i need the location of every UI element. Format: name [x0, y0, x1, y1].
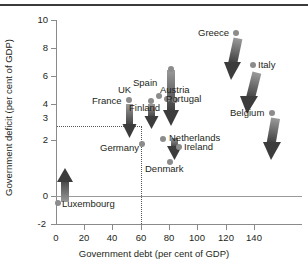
scatter-chart: 10 8 6 4 3 2 0 -2 0 20 40 60 80 100 120 … [0, 0, 308, 268]
arrow-belgium [263, 117, 281, 160]
data-point-ireland[interactable] [176, 144, 182, 150]
label-germany: Germany [100, 142, 139, 153]
label-uk: UK [118, 84, 131, 95]
label-greece: Greece [198, 27, 229, 38]
data-point-netherlands[interactable] [160, 136, 166, 142]
arrow-greece [224, 37, 242, 80]
data-point-greece[interactable] [233, 30, 239, 36]
label-denmark: Denmark [145, 163, 184, 174]
label-portugal: Portugal [166, 93, 201, 104]
label-italy: Italy [258, 59, 275, 70]
data-point-italy[interactable] [250, 62, 256, 68]
arrow-layer [0, 0, 308, 268]
data-point-germany[interactable] [139, 141, 145, 147]
label-spain: Spain [133, 77, 157, 88]
data-point-luxembourg[interactable] [55, 200, 61, 206]
arrow-luxembourg [57, 168, 73, 202]
label-luxembourg: Luxembourg [62, 198, 115, 209]
data-point-belgium[interactable] [269, 110, 275, 116]
label-finland: Finland [129, 102, 160, 113]
label-ireland: Ireland [184, 141, 213, 152]
label-belgium: Belgium [230, 107, 264, 118]
label-france: France [92, 95, 122, 106]
data-point-unlabeled[interactable] [168, 66, 174, 72]
